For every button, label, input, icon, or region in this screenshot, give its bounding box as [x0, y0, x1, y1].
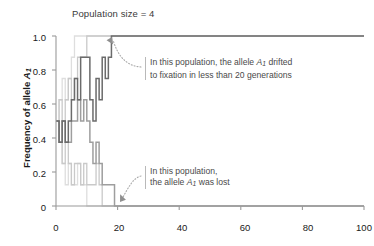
- annotation-lost-line1: In this population,: [150, 166, 217, 176]
- annotation-fixation: In this population, the allele A1 drifte…: [145, 57, 292, 80]
- trace-population-fixed: [56, 36, 364, 142]
- leader-line-lost: [122, 176, 141, 199]
- annotation-lost-line2b: was lost: [196, 177, 229, 187]
- annotation-fixation-line1a: In this population, the allele: [150, 57, 257, 67]
- chart-figure: Population size = 4 Frequency of allele …: [0, 0, 374, 246]
- arrowhead-lost: [117, 194, 127, 204]
- annotation-lost-line2a: the allele: [150, 177, 187, 187]
- leader-lines-group: [106, 36, 141, 204]
- annotation-fixation-line2: to fixation in less than 20 generations: [150, 70, 292, 80]
- annotation-fixation-line1b: drifted: [266, 57, 292, 67]
- arrowhead-fixation: [106, 36, 115, 45]
- annotation-lost: In this population, the allele A1 was lo…: [145, 166, 230, 189]
- leader-line-fixation: [113, 40, 141, 67]
- plot-canvas: [0, 0, 374, 246]
